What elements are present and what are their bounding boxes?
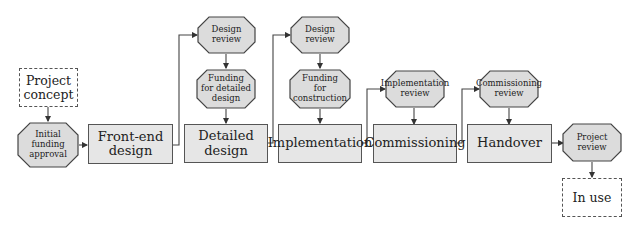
gate-label-line: review xyxy=(303,35,338,45)
gate-label-line: review xyxy=(575,143,610,153)
gate-label-line: review xyxy=(492,89,527,99)
gate-funding-construction: Funding for construction xyxy=(289,69,351,109)
gate-implementation-review: Implementation review xyxy=(385,70,445,108)
gate-label-line: approval xyxy=(26,150,70,160)
gate-label-line: review xyxy=(209,35,244,45)
project-concept-line1: Project xyxy=(26,74,71,88)
stage-detailed-design: Detailed design xyxy=(184,124,268,163)
gate-label-line: construction xyxy=(290,94,350,104)
gate-label-line: design xyxy=(209,94,243,104)
stage-label-line: Implementation xyxy=(268,136,373,150)
in-use-box: In use xyxy=(562,178,622,217)
gate-funding-detailed-design: Funding for detailed design xyxy=(196,69,256,109)
project-concept-line2: concept xyxy=(24,88,74,102)
stage-commissioning: Commissioning xyxy=(373,124,457,163)
project-concept-box: Project concept xyxy=(19,68,78,107)
gate-design-review-2: Design review xyxy=(290,16,350,54)
stage-label-line: Handover xyxy=(477,136,542,150)
gate-initial-funding-approval: Initial funding approval xyxy=(17,122,79,168)
stage-front-end-design: Front-end design xyxy=(88,124,173,164)
stage-label-line: design xyxy=(109,144,153,158)
gate-design-review-1: Design review xyxy=(197,16,256,54)
gate-label-line: review xyxy=(398,89,433,99)
stage-label-line: Commissioning xyxy=(364,136,465,150)
gate-commissioning-review: Commissioning review xyxy=(479,70,539,108)
in-use-label: In use xyxy=(573,191,612,205)
stage-implementation: Implementation xyxy=(278,124,362,163)
stage-label-line: design xyxy=(204,144,248,158)
stage-handover: Handover xyxy=(467,124,552,163)
gate-project-review: Project review xyxy=(562,123,622,162)
stage-label-line: Detailed xyxy=(198,129,253,143)
stage-label-line: Front-end xyxy=(98,130,163,144)
